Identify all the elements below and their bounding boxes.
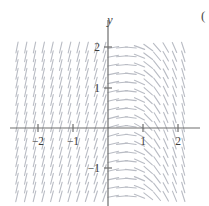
slope-segment [154,148,160,157]
slope-segment [134,80,144,84]
slope-segment [125,125,136,127]
slope-segment [164,139,168,149]
y-tick-label: 1 [94,82,100,94]
slope-segment [135,106,145,111]
slope-segment [154,174,161,183]
slope-segment [125,47,136,48]
slope-segment [134,159,144,164]
slope-segment [144,62,153,69]
direction-field-figure: −2−11221−1y ( [0,0,209,206]
slope-segment [163,165,168,175]
slope-segment [144,88,152,95]
slope-segment [172,42,176,52]
slope-segment [144,149,152,157]
slope-segment [172,51,176,61]
slope-segment [163,69,168,79]
slope-segment [144,105,152,113]
slope-segment [144,53,153,60]
slope-segment [154,104,160,113]
slope-segment [134,89,144,94]
slope-segment [154,87,160,96]
y-tick-label: 2 [94,41,100,53]
slope-segment [134,168,144,172]
x-tick-label: −2 [32,135,44,147]
y-tick-label: −1 [88,162,100,174]
slope-segment [163,147,168,157]
slope-segment [125,178,136,179]
slope-segment [144,175,152,182]
slope-segment [125,73,136,74]
slope-segment [125,152,136,153]
slope-segment [164,104,168,114]
x-tick-label: 2 [175,135,181,147]
slope-segment [144,44,153,50]
slope-segment [154,139,160,148]
slope-segment [163,191,168,201]
slope-segment [154,121,159,131]
slope-segment [164,121,168,131]
slope-segment [154,78,161,87]
slope-segment [163,51,168,61]
slope-segment [125,134,136,136]
direction-field-plot: −2−11221−1y [0,0,209,206]
slope-segment [125,143,136,144]
slope-segment [163,174,168,184]
slope-segment [163,86,168,96]
slope-segment [144,193,153,200]
slope-segment [134,72,144,76]
slope-segment [125,91,136,92]
slope-segment [144,158,152,165]
slope-segment [144,166,152,173]
slope-segment [144,96,152,103]
slope-segment [135,150,145,155]
y-axis-name: y [106,13,113,27]
slope-segment [144,70,153,77]
slope-segment [135,115,145,120]
slope-segment [163,78,168,88]
slope-segment [163,183,168,193]
slope-segment [154,61,161,70]
x-tick-label: 1 [140,135,146,147]
slope-segment [154,113,160,122]
slope-segment [125,82,136,83]
slope-segment [154,52,161,60]
slope-segment [145,122,152,130]
slope-segment [154,69,161,78]
slope-segment [125,161,136,162]
slope-segment [125,99,136,100]
slope-segment [154,192,161,201]
slope-segment [154,157,160,166]
slope-segment [154,95,160,104]
slope-segment [153,43,160,51]
slope-segment [163,43,169,52]
slope-segment [154,183,161,192]
slope-segment [163,95,168,105]
slope-segment [163,156,168,166]
slope-segment [144,184,153,191]
slope-segment [125,56,136,57]
slope-segment [125,117,136,118]
slope-segment [125,108,136,109]
slope-segment [144,114,152,122]
slope-segment [125,196,136,197]
slope-segment [154,166,160,175]
slope-segment [134,177,144,181]
slope-segment [163,60,168,70]
slope-segment [135,98,145,103]
slope-segment [125,187,136,188]
slope-field-segments [16,42,185,202]
slope-segment [144,79,152,86]
slope-segment [154,130,160,139]
corner-label: ( [201,8,208,24]
slope-segment [125,64,136,65]
x-tick-label: −1 [67,135,79,147]
slope-segment [125,169,136,170]
